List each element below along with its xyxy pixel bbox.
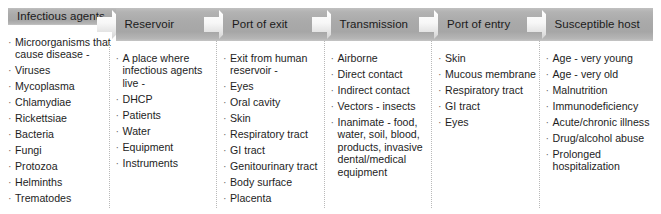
- stage-header-susceptible-host: Susceptible host: [546, 8, 654, 41]
- list-item: ·Age - very young: [546, 52, 651, 64]
- list-item-label: Viruses: [15, 64, 50, 76]
- bullet-icon: ·: [546, 100, 550, 112]
- list-item: ·Direct contact: [331, 68, 436, 80]
- stage-title: Port of exit: [232, 18, 288, 31]
- list-item-label: Body surface: [230, 176, 292, 188]
- list-item-label: Acute/chronic illness: [553, 116, 650, 128]
- list-item: ·Acute/chronic illness: [546, 116, 651, 128]
- bullet-icon: ·: [223, 52, 227, 64]
- list-item-label: GI tract: [445, 100, 480, 112]
- list-item: ·Skin: [223, 112, 328, 124]
- list-item-label: Respiratory tract: [230, 128, 308, 140]
- list-item-label: Malnutrition: [553, 84, 608, 96]
- list-item-label: Trematodes: [15, 192, 71, 204]
- bullet-icon: ·: [223, 144, 227, 156]
- list-item-label: Mucous membrane: [445, 68, 536, 80]
- list-item-label: Indirect contact: [338, 84, 410, 96]
- list-item-label: Skin: [230, 112, 251, 124]
- list-item-label: Prolonged hospitalization: [553, 148, 620, 172]
- list-item: ·Rickettsiae: [8, 112, 113, 124]
- list-item-label: Equipment: [123, 141, 174, 153]
- list-item-label: Chlamydiae: [15, 96, 71, 108]
- stage-header-transmission: Transmission: [331, 8, 439, 41]
- list-item: ·Mucous membrane: [438, 68, 543, 80]
- stage-susceptible-host: Susceptible host·Age - very young·Age - …: [546, 8, 654, 208]
- list-item: ·GI tract: [223, 144, 328, 156]
- list-item: ·Immunodeficiency: [546, 100, 651, 112]
- bullet-icon: ·: [116, 93, 120, 105]
- bullet-icon: ·: [438, 84, 442, 96]
- stage-title: Transmission: [340, 18, 409, 31]
- list-item-label: Mycoplasma: [15, 80, 75, 92]
- list-item: ·A place where infectious agents live -: [116, 52, 221, 89]
- stage-title: Susceptible host: [555, 18, 640, 31]
- bullet-icon: ·: [8, 128, 12, 140]
- list-item-label: Placenta: [230, 192, 271, 204]
- bullet-icon: ·: [223, 192, 227, 204]
- bullet-icon: ·: [223, 160, 227, 172]
- list-item: ·Eyes: [438, 116, 543, 128]
- list-item: ·Inanimate - food, water, soil, blood, p…: [331, 116, 436, 178]
- list-item-label: Vectors - insects: [338, 100, 416, 112]
- stage-body-infectious-agents: ·Microorganisms that cause disease -·Vir…: [8, 25, 116, 208]
- bullet-icon: ·: [8, 80, 12, 92]
- list-item: ·Exit from human reservoir -: [223, 52, 328, 77]
- list-item-label: Oral cavity: [230, 96, 280, 108]
- list-item: ·Eyes: [223, 80, 328, 92]
- bullet-icon: ·: [8, 96, 12, 108]
- stage-item-list: ·Age - very young·Age - very old·Malnutr…: [546, 52, 651, 173]
- list-item-label: Microorganisms that cause disease -: [15, 36, 111, 60]
- stage-title: Reservoir: [125, 18, 175, 31]
- list-item: ·Instruments: [116, 157, 221, 169]
- bullet-icon: ·: [546, 68, 550, 80]
- bullet-icon: ·: [8, 192, 12, 204]
- list-item-label: Age - very young: [553, 52, 633, 64]
- list-item: ·Prolonged hospitalization: [546, 148, 651, 173]
- stage-item-list: ·Airborne·Direct contact·Indirect contac…: [331, 52, 436, 178]
- bullet-icon: ·: [8, 144, 12, 156]
- list-item-label: Genitourinary tract: [230, 160, 318, 172]
- list-item: ·Age - very old: [546, 68, 651, 80]
- stage-body-port-of-exit: ·Exit from human reservoir -·Eyes·Oral c…: [223, 41, 331, 208]
- list-item-label: Skin: [445, 52, 466, 64]
- list-item: ·Oral cavity: [223, 96, 328, 108]
- list-item: ·Skin: [438, 52, 543, 64]
- list-item-label: Exit from human reservoir -: [230, 52, 307, 76]
- bullet-icon: ·: [116, 109, 120, 121]
- list-item: ·Helminths: [8, 176, 113, 188]
- stage-item-list: ·Exit from human reservoir -·Eyes·Oral c…: [223, 52, 328, 205]
- list-item-label: Bacteria: [15, 128, 54, 140]
- list-item-label: Eyes: [445, 116, 469, 128]
- list-item: ·Drug/alcohol abuse: [546, 132, 651, 144]
- list-item-label: Patients: [123, 109, 161, 121]
- stage-item-list: ·Skin·Mucous membrane·Respiratory tract·…: [438, 52, 543, 128]
- bullet-icon: ·: [438, 100, 442, 112]
- stage-chain: Infectious agents·Microorganisms that ca…: [8, 8, 653, 208]
- stage-header-port-of-entry: Port of entry: [438, 8, 546, 41]
- stage-body-port-of-entry: ·Skin·Mucous membrane·Respiratory tract·…: [438, 41, 546, 208]
- list-item: ·Malnutrition: [546, 84, 651, 96]
- list-item-label: Age - very old: [553, 68, 619, 80]
- list-item-label: Immunodeficiency: [553, 100, 639, 112]
- bullet-icon: ·: [8, 36, 12, 48]
- bullet-icon: ·: [116, 141, 120, 153]
- list-item: ·GI tract: [438, 100, 543, 112]
- stage-port-of-exit: Port of exit·Exit from human reservoir -…: [223, 8, 331, 208]
- bullet-icon: ·: [546, 84, 550, 96]
- stage-header-port-of-exit: Port of exit: [223, 8, 331, 41]
- list-item-label: Airborne: [338, 52, 378, 64]
- list-item-label: Rickettsiae: [15, 112, 67, 124]
- list-item: ·Indirect contact: [331, 84, 436, 96]
- bullet-icon: ·: [8, 64, 12, 76]
- list-item: ·Vectors - insects: [331, 100, 436, 112]
- list-item-label: GI tract: [230, 144, 265, 156]
- bullet-icon: ·: [223, 128, 227, 140]
- list-item-label: A place where infectious agents live -: [123, 52, 203, 89]
- stage-body-reservoir: ·A place where infectious agents live -·…: [116, 41, 224, 208]
- list-item: ·Genitourinary tract: [223, 160, 328, 172]
- bullet-icon: ·: [116, 52, 120, 64]
- bullet-icon: ·: [116, 125, 120, 137]
- bullet-icon: ·: [223, 112, 227, 124]
- list-item-label: DHCP: [123, 93, 153, 105]
- stage-header-reservoir: Reservoir: [116, 8, 224, 41]
